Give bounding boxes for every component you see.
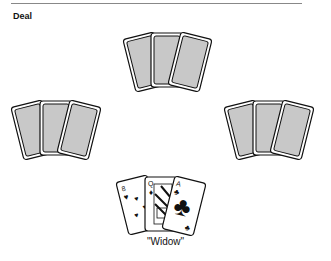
hand-right — [224, 100, 314, 160]
hand-widow: 8 ♥ ♥ ♥ ♥ Q ♦ A ♣ ♣ ♣ — [116, 175, 206, 236]
svg-text:Q: Q — [148, 180, 154, 188]
hand-left — [11, 100, 101, 160]
hand-top — [123, 32, 212, 92]
svg-text:♦: ♦ — [149, 188, 153, 197]
deal-diagram: 8 ♥ ♥ ♥ ♥ Q ♦ A ♣ ♣ ♣ — [0, 0, 331, 261]
widow-label: "Widow" — [0, 236, 331, 247]
